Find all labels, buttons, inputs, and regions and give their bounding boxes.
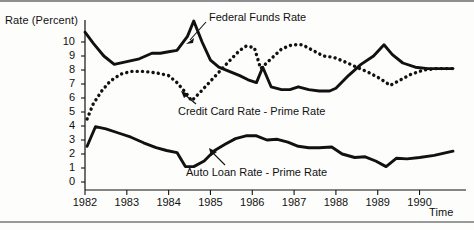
- y-axis-tick-label: 3: [53, 133, 75, 145]
- x-axis-tick-label: 1985: [190, 196, 230, 208]
- y-axis-tick-label: 4: [53, 119, 75, 131]
- y-axis-tick-label: 0: [53, 175, 75, 187]
- y-axis-tick-label: 10: [53, 35, 75, 47]
- y-axis-tick-label: 6: [53, 91, 75, 103]
- y-axis-tick-label: 7: [53, 77, 75, 89]
- x-axis-tick-label: 1982: [65, 196, 105, 208]
- x-axis-tick-label: 1987: [274, 196, 314, 208]
- series-line-auto-loan-rate-prime-rate: [87, 127, 453, 167]
- x-axis-tick-label: 1984: [149, 196, 189, 208]
- y-axis-tick-label: 2: [53, 147, 75, 159]
- y-axis-tick-label: 5: [53, 105, 75, 117]
- y-axis-tick-label: 1: [53, 161, 75, 173]
- x-axis-tick-label: 1988: [316, 196, 356, 208]
- y-axis-tick-label: 9: [53, 49, 75, 61]
- figure-container: Rate (Percent) Time Federal Funds Rate C…: [0, 0, 474, 230]
- x-axis-tick-label: 1986: [232, 196, 272, 208]
- series-line-federal-funds-rate: [85, 21, 453, 91]
- axis-layer: [81, 20, 466, 195]
- y-axis-tick-label: 8: [53, 63, 75, 75]
- series-layer: [85, 21, 453, 167]
- x-axis-tick-label: 1989: [358, 196, 398, 208]
- x-axis-tick-label: 1990: [400, 196, 440, 208]
- x-axis-tick-label: 1983: [107, 196, 147, 208]
